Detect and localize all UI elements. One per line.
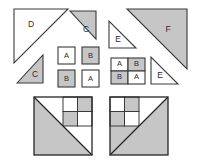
geometric-dissection-figure: D C C A B <box>0 0 200 160</box>
left-square-a2-shape <box>82 70 99 87</box>
left-square-b2-shape <box>58 70 75 87</box>
br-inner-cell-3 <box>110 112 125 127</box>
left-square-b1-shape <box>82 47 99 64</box>
left-square-b1: B <box>82 47 99 64</box>
bl-inner-cell-4 <box>78 112 93 127</box>
right-square-b2-shape <box>111 71 128 84</box>
bottom-right-composite <box>110 97 168 155</box>
br-inner-cell-4 <box>125 112 140 127</box>
bl-inner-cell-2 <box>78 97 93 112</box>
right-square-a2-shape <box>128 71 145 84</box>
left-square-b2: B <box>58 70 75 87</box>
right-square-b1-shape <box>128 58 145 71</box>
left-square-a1: A <box>58 47 75 64</box>
bl-inner-cell-3 <box>63 112 78 127</box>
left-square-a1-shape <box>58 47 75 64</box>
left-square-a2: A <box>82 70 99 87</box>
bl-inner-cell-1 <box>63 97 78 112</box>
right-square-block: A B B A <box>111 58 145 84</box>
right-square-a1-shape <box>111 58 128 71</box>
figure-canvas: D C C A B <box>0 0 200 160</box>
br-inner-cell-1 <box>110 97 125 112</box>
br-inner-cell-2 <box>125 97 140 112</box>
bottom-left-composite <box>34 97 92 155</box>
